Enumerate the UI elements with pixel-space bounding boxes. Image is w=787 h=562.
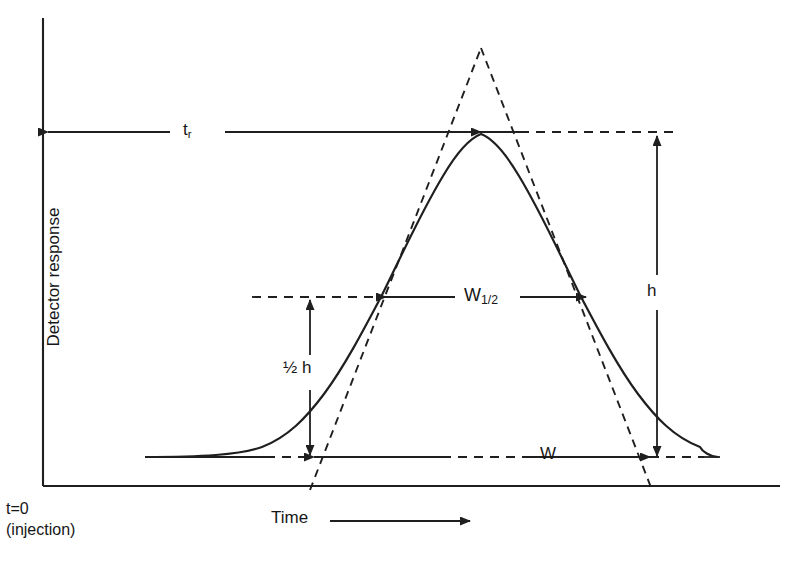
- axis-group: [43, 18, 780, 486]
- chromatogram-svg: [0, 0, 787, 562]
- retention-time-label: tr: [183, 120, 192, 141]
- origin-injection-label: (injection): [6, 521, 75, 540]
- width-base-label: W: [540, 444, 556, 464]
- peak-curve-group: [145, 134, 718, 457]
- origin-time-label: t=0: [6, 500, 29, 519]
- peak-height-label: h: [647, 281, 656, 301]
- width-half-height-label: W1/2: [464, 285, 498, 307]
- tangent-triangle: [310, 48, 652, 490]
- half-height-label: ½ h: [283, 358, 311, 378]
- chromatogram-figure: Detector response tr h ½ h W1/2 W Time t…: [0, 0, 787, 562]
- x-axis-label: Time: [271, 508, 308, 528]
- detector-signal-curve: [145, 134, 718, 457]
- retention-time-label-subscript: r: [188, 128, 192, 140]
- width-half-height-label-subscript: 1/2: [481, 293, 498, 307]
- y-axis-label: Detector response: [44, 167, 64, 387]
- width-half-height-label-text: W: [464, 285, 481, 305]
